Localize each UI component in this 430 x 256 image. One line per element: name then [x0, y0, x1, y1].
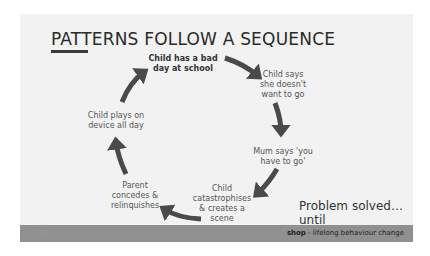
node-line: concedes & — [111, 191, 159, 201]
brand-tagline: shop - lifelong behaviour change — [287, 229, 404, 237]
node-line: Child plays on — [88, 111, 144, 121]
node-line: have to go' — [253, 157, 313, 167]
node-line: catastrophises — [193, 194, 251, 204]
cycle-node-doesnt-want: Child says she doesn't want to go — [260, 70, 306, 100]
node-line: day at school — [148, 64, 217, 74]
node-line: she doesn't — [260, 80, 306, 90]
arrow-2-icon — [275, 103, 281, 132]
node-line: Child has a bad — [148, 54, 217, 64]
node-line: scene — [193, 214, 251, 224]
arrow-5-icon — [116, 142, 126, 174]
node-line: want to go — [260, 90, 306, 100]
page-number: 24 — [38, 228, 47, 237]
brand-slogan: - lifelong behaviour change — [306, 229, 404, 237]
arrow-1-icon — [225, 58, 258, 76]
node-line: Mum says 'you — [253, 147, 313, 157]
footer-bar: 24 shop - lifelong behaviour change — [20, 225, 413, 242]
cycle-node-bad-day: Child has a bad day at school — [148, 54, 217, 74]
brand-name: shop — [287, 229, 306, 237]
slide: PATTERNS FOLLOW A SEQUENCE Child has a b… — [20, 14, 413, 242]
node-line: Parent — [111, 181, 159, 191]
arrow-3-icon — [257, 169, 277, 194]
cycle-node-parent-concedes: Parent concedes & relinquishes — [111, 181, 159, 211]
node-line: & creates a — [193, 204, 251, 214]
cycle-node-mum-says: Mum says 'you have to go' — [253, 147, 313, 167]
arrow-6-icon — [122, 72, 144, 102]
cycle-node-catastrophises: Child catastrophises & creates a scene — [193, 184, 251, 224]
node-line: Child — [193, 184, 251, 194]
node-line: Child says — [260, 70, 306, 80]
node-line: device all day — [88, 121, 144, 131]
node-line: relinquishes — [111, 201, 159, 211]
cycle-node-plays-device: Child plays on device all day — [88, 111, 144, 131]
punchline-line: Problem solved…until — [299, 199, 413, 227]
